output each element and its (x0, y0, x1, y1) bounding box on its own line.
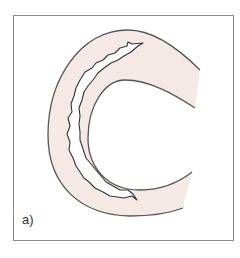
panel-label: a) (22, 212, 34, 227)
diagram-figure: a) (0, 0, 240, 258)
c-shape-cross-section (0, 0, 240, 258)
